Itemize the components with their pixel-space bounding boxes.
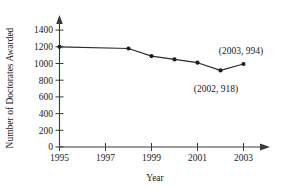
data-point-2002: [218, 68, 222, 72]
annotation-2003: (2003, 994): [219, 46, 263, 57]
data-point-1999: [149, 54, 153, 58]
x-tick-label-1995: 1995: [50, 153, 69, 163]
x-tick-label-2003: 2003: [234, 153, 253, 163]
y-tick-label-600: 600: [39, 92, 54, 102]
doctorates-awarded-line-chart: 0 200 400 600 800 1000 1200 1400 1995 19…: [0, 0, 283, 188]
data-point-2000: [172, 57, 176, 61]
y-tick-label-200: 200: [39, 126, 54, 136]
y-tick-label-1400: 1400: [34, 25, 53, 35]
data-point-1995: [57, 45, 61, 49]
y-axis-arrow-icon: [56, 15, 63, 24]
y-tick-label-0: 0: [48, 142, 53, 152]
x-axis-arrow-icon: [260, 143, 270, 150]
x-tick-label-1999: 1999: [142, 153, 161, 163]
x-tick-label-1997: 1997: [96, 153, 115, 163]
y-axis-title: Number of Doctorates Awarded: [5, 27, 15, 148]
y-tick-label-400: 400: [39, 109, 54, 119]
data-point-1998: [126, 46, 130, 50]
y-tick-label-1000: 1000: [34, 59, 53, 69]
y-tick-label-1200: 1200: [34, 42, 53, 52]
data-point-2003: [241, 62, 245, 66]
x-tick-label-2001: 2001: [188, 153, 207, 163]
data-point-2001: [195, 61, 199, 65]
x-axis-title: Year: [146, 173, 164, 183]
annotation-2002: (2002, 918): [194, 84, 238, 95]
chart-page: 0 200 400 600 800 1000 1200 1400 1995 19…: [0, 0, 283, 188]
y-tick-label-800: 800: [39, 76, 54, 86]
data-series-line: [60, 47, 244, 71]
